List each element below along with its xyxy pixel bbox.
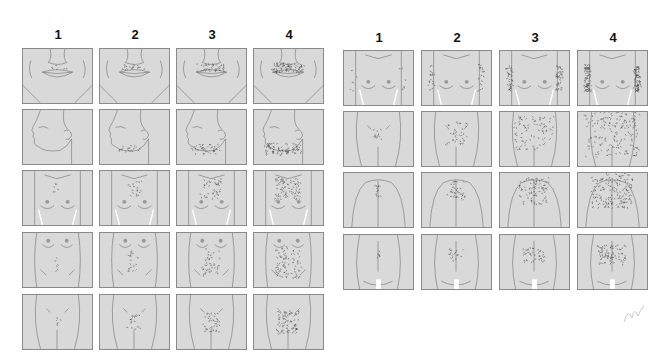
upper-arms-illustration-icon	[344, 51, 413, 105]
upper-lip-illustration-icon	[23, 49, 92, 103]
left-panel-chin-grade-2	[99, 109, 170, 165]
lower-abdomen-illustration-icon	[177, 295, 246, 349]
right-panel-upper-arms-grade-4	[577, 50, 648, 106]
left-panel-upper-lip-grade-1	[22, 48, 93, 104]
thighs-illustration-icon	[422, 112, 491, 166]
right-panel-lower-back-grade-4	[577, 234, 648, 290]
right-column-label-2: 2	[421, 30, 493, 45]
right-column-label-1: 1	[343, 30, 415, 45]
left-panel-chin-grade-3	[176, 109, 247, 165]
left-panel-upper-lip-grade-2	[99, 48, 170, 104]
right-panel-thighs-grade-1	[343, 111, 414, 167]
left-panel-upper-lip-grade-3	[176, 48, 247, 104]
lower-back-illustration-icon	[422, 235, 491, 289]
left-panel-chin-grade-1	[22, 109, 93, 165]
right-column-label-3: 3	[499, 30, 571, 45]
lower-back-illustration-icon	[578, 235, 647, 289]
chest-illustration-icon	[177, 171, 246, 225]
right-panel-upper-arms-grade-3	[499, 50, 570, 106]
left-panel-lower-abdomen-grade-4	[253, 294, 324, 350]
upper-abdomen-illustration-icon	[100, 233, 169, 287]
artist-signature	[620, 300, 648, 328]
upper-lip-illustration-icon	[100, 49, 169, 103]
thighs-illustration-icon	[500, 112, 569, 166]
upper-abdomen-illustration-icon	[23, 233, 92, 287]
thighs-illustration-icon	[344, 112, 413, 166]
lower-back-illustration-icon	[500, 235, 569, 289]
left-column-label-2: 2	[99, 27, 171, 42]
left-panel-chest-grade-4	[253, 170, 324, 226]
left-panel-lower-abdomen-grade-1	[22, 294, 93, 350]
upper-arms-illustration-icon	[422, 51, 491, 105]
left-panel-lower-abdomen-grade-3	[176, 294, 247, 350]
upper-lip-illustration-icon	[177, 49, 246, 103]
left-column-label-4: 4	[253, 27, 325, 42]
lower-back-illustration-icon	[344, 235, 413, 289]
right-column-label-4: 4	[577, 30, 649, 45]
upper-back-illustration-icon	[422, 173, 491, 227]
right-panel-thighs-grade-3	[499, 111, 570, 167]
upper-abdomen-illustration-icon	[177, 233, 246, 287]
upper-arms-illustration-icon	[578, 51, 647, 105]
right-panel-upper-arms-grade-2	[421, 50, 492, 106]
right-panel-upper-back-grade-1	[343, 172, 414, 228]
chest-illustration-icon	[100, 171, 169, 225]
left-panel-upper-abdomen-grade-2	[99, 232, 170, 288]
right-panel-lower-back-grade-3	[499, 234, 570, 290]
chest-illustration-icon	[254, 171, 323, 225]
left-column-label-3: 3	[176, 27, 248, 42]
right-panel-upper-arms-grade-1	[343, 50, 414, 106]
chin-illustration-icon	[177, 110, 246, 164]
left-panel-upper-abdomen-grade-3	[176, 232, 247, 288]
left-panel-chin-grade-4	[253, 109, 324, 165]
chest-illustration-icon	[23, 171, 92, 225]
right-panel-thighs-grade-2	[421, 111, 492, 167]
right-panel-thighs-grade-4	[577, 111, 648, 167]
upper-lip-illustration-icon	[254, 49, 323, 103]
upper-back-illustration-icon	[578, 173, 647, 227]
chin-illustration-icon	[23, 110, 92, 164]
lower-abdomen-illustration-icon	[100, 295, 169, 349]
left-panel-upper-lip-grade-4	[253, 48, 324, 104]
chin-illustration-icon	[254, 110, 323, 164]
left-panel-upper-abdomen-grade-1	[22, 232, 93, 288]
lower-abdomen-illustration-icon	[254, 295, 323, 349]
right-panel-lower-back-grade-1	[343, 234, 414, 290]
left-panel-upper-abdomen-grade-4	[253, 232, 324, 288]
upper-abdomen-illustration-icon	[254, 233, 323, 287]
right-panel-lower-back-grade-2	[421, 234, 492, 290]
right-panel-upper-back-grade-4	[577, 172, 648, 228]
upper-back-illustration-icon	[344, 173, 413, 227]
right-panel-upper-back-grade-2	[421, 172, 492, 228]
right-panel-upper-back-grade-3	[499, 172, 570, 228]
left-panel-chest-grade-2	[99, 170, 170, 226]
thighs-illustration-icon	[578, 112, 647, 166]
lower-abdomen-illustration-icon	[23, 295, 92, 349]
chin-illustration-icon	[100, 110, 169, 164]
upper-back-illustration-icon	[500, 173, 569, 227]
left-panel-chest-grade-1	[22, 170, 93, 226]
left-panel-lower-abdomen-grade-2	[99, 294, 170, 350]
left-column-label-1: 1	[22, 27, 94, 42]
left-panel-chest-grade-3	[176, 170, 247, 226]
upper-arms-illustration-icon	[500, 51, 569, 105]
